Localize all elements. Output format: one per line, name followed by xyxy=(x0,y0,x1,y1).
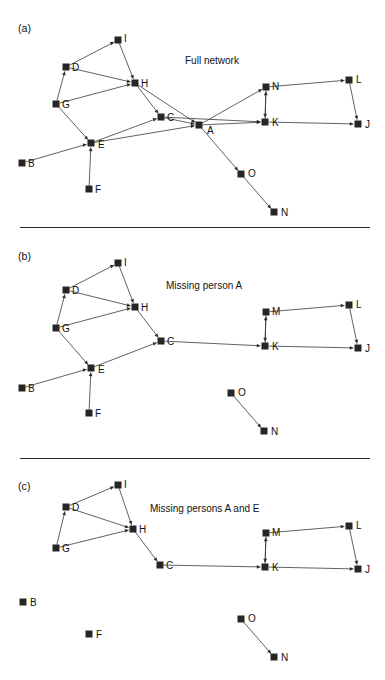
node-label-b-M: M xyxy=(272,306,280,317)
node-c-B xyxy=(20,599,27,606)
arrowhead-K-to-J xyxy=(350,567,354,571)
node-label-b-J: J xyxy=(365,343,370,354)
node-label-b-O: O xyxy=(238,387,246,398)
edge-I-to-H xyxy=(119,43,133,78)
edge-A-to-N1 xyxy=(202,89,262,123)
node-a-I xyxy=(115,37,122,44)
arrowhead-F-to-E xyxy=(89,148,93,152)
node-b-J xyxy=(355,345,362,352)
node-a-K xyxy=(262,119,269,126)
node-c-H xyxy=(130,526,137,533)
node-label-a-A: A xyxy=(207,125,214,136)
node-b-E xyxy=(88,365,95,372)
edge-I-to-H xyxy=(119,488,131,524)
arrowhead-K-to-J xyxy=(350,122,354,126)
node-label-b-E: E xyxy=(98,364,105,375)
edge-G-to-H xyxy=(59,530,128,547)
node-a-C xyxy=(158,114,165,121)
node-c-J xyxy=(355,566,362,573)
edge-K-to-J xyxy=(269,346,354,348)
arrowhead-K-to-M xyxy=(264,538,268,542)
node-c-D xyxy=(63,504,70,511)
node-label-b-N: N xyxy=(271,426,278,437)
arrowhead-B-to-E xyxy=(83,143,87,147)
arrowhead-K-to-J xyxy=(350,346,354,350)
node-c-I xyxy=(115,482,122,489)
node-label-c-I: I xyxy=(124,479,127,490)
node-b-H xyxy=(132,304,139,311)
node-b-K xyxy=(262,343,269,350)
node-c-F xyxy=(86,631,93,638)
node-label-c-O: O xyxy=(248,613,256,624)
arrowhead-E-to-A xyxy=(191,124,195,128)
node-a-J xyxy=(355,121,362,128)
edge-O-to-N2 xyxy=(243,177,271,209)
network-diagram-canvas: IDHGCANKLJEBFONIDHGCMKLJEBFONIDHGCMKLJBF… xyxy=(0,0,385,680)
node-b-C xyxy=(158,338,165,345)
node-label-a-K: K xyxy=(272,117,279,128)
node-a-A xyxy=(196,122,203,129)
node-b-D xyxy=(63,287,70,294)
node-a-H xyxy=(132,80,139,87)
edge-G-to-D xyxy=(57,71,65,100)
node-label-a-D: D xyxy=(72,62,79,73)
panel-label-c: (c) xyxy=(18,480,31,492)
panel-title-a: Full network xyxy=(185,55,239,66)
arrowhead-F-to-E xyxy=(89,373,93,377)
node-c-L xyxy=(346,523,353,530)
node-a-L xyxy=(346,77,353,84)
node-label-c-N: N xyxy=(281,652,288,663)
node-label-c-C: C xyxy=(166,560,173,571)
node-b-L xyxy=(346,302,353,309)
divider-a-b xyxy=(20,227,370,228)
edge-O-to-N xyxy=(233,396,261,428)
edge-E-to-A xyxy=(95,126,195,143)
node-label-a-B: B xyxy=(28,158,35,169)
node-c-K xyxy=(262,564,269,571)
node-label-c-F: F xyxy=(96,629,102,640)
node-label-b-I: I xyxy=(124,257,127,268)
node-label-a-O: O xyxy=(248,168,256,179)
node-b-G xyxy=(53,325,60,332)
edge-G-to-H xyxy=(59,84,130,103)
panel-title-c: Missing persons A and E xyxy=(150,503,260,514)
arrowhead-C-to-K xyxy=(257,344,261,348)
divider-b-c xyxy=(20,458,370,459)
arrowhead-D-to-H xyxy=(127,303,131,307)
edge-M-to-L xyxy=(270,526,345,532)
node-label-a-F: F xyxy=(95,184,101,195)
node-a-D xyxy=(63,64,70,71)
edge-C-to-K xyxy=(165,341,261,346)
node-label-b-F: F xyxy=(95,408,101,419)
arrowhead-M-to-L xyxy=(341,304,345,308)
node-label-c-B: B xyxy=(30,597,37,608)
arrowhead-G-to-D xyxy=(62,294,66,298)
edge-O-to-N xyxy=(243,622,271,654)
arrowhead-K-to-N1 xyxy=(264,92,268,96)
node-a-B xyxy=(19,160,26,167)
edge-L-to-J xyxy=(350,84,357,120)
edge-G-to-E xyxy=(58,107,88,140)
arrowhead-G-to-H xyxy=(125,529,129,533)
edge-K-to-J xyxy=(269,122,354,124)
arrowhead-K-to-M xyxy=(264,317,268,321)
node-c-G xyxy=(53,545,60,552)
node-label-b-L: L xyxy=(356,299,362,310)
edge-M-to-L xyxy=(270,305,345,311)
network-figure: IDHGCANKLJEBFONIDHGCMKLJEBFONIDHGCMKLJBF… xyxy=(0,0,385,680)
arrowhead-G-to-H xyxy=(127,83,131,87)
arrowhead-G-to-H xyxy=(127,307,131,311)
node-c-O xyxy=(238,616,245,623)
node-label-a-H: H xyxy=(141,78,148,89)
edge-L-to-J xyxy=(350,309,357,344)
node-label-c-K: K xyxy=(272,562,279,573)
edge-G-to-D xyxy=(57,511,65,544)
node-label-c-G: G xyxy=(62,543,70,554)
arrowhead-H-to-C xyxy=(154,557,158,561)
node-label-a-I: I xyxy=(124,33,127,44)
node-a-N2 xyxy=(271,209,278,216)
node-label-c-H: H xyxy=(139,524,146,535)
panel-label-a: (a) xyxy=(18,22,31,34)
node-a-O xyxy=(238,171,245,178)
panel-title-b: Missing person A xyxy=(166,280,242,291)
